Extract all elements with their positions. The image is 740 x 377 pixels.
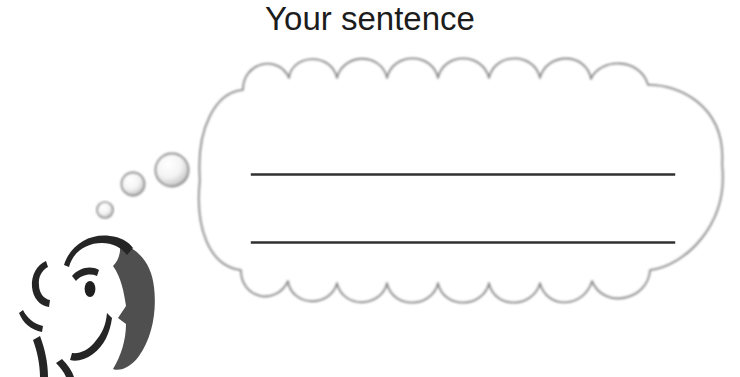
thought-dot-large xyxy=(156,154,189,187)
thought-dot-medium xyxy=(122,173,145,196)
eye xyxy=(85,281,96,297)
head-shading xyxy=(113,243,155,370)
thought-bubble-outline xyxy=(199,59,723,303)
thought-dot-small xyxy=(97,202,113,218)
nose-mouth-line xyxy=(19,310,43,332)
worksheet-canvas: Your sentence xyxy=(0,0,740,377)
illustration xyxy=(0,0,740,377)
person-head-profile xyxy=(19,236,155,377)
ear xyxy=(32,261,50,307)
head-jaw-line xyxy=(70,313,112,361)
neck-shoulder xyxy=(33,336,48,377)
shoulder-line xyxy=(56,359,74,377)
eyebrow xyxy=(72,268,99,281)
thought-dots xyxy=(97,154,189,219)
thought-bubble xyxy=(199,59,723,303)
